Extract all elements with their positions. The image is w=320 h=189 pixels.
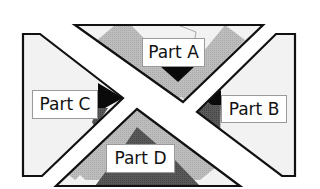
part-b-label: Part B xyxy=(221,95,287,123)
part-c-label: Part C xyxy=(32,90,98,119)
part-d-label: Part D xyxy=(106,144,175,173)
part-a-label: Part A xyxy=(142,38,205,67)
